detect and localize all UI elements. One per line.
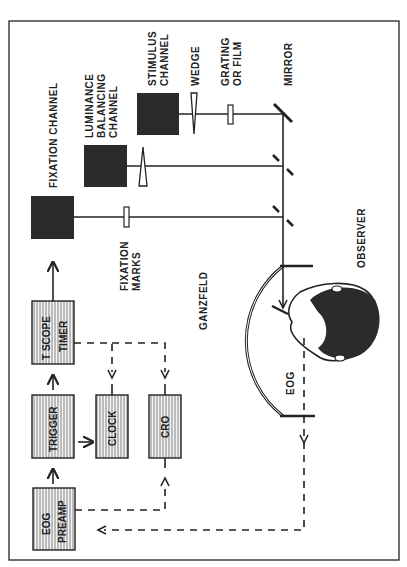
timer-to-clock-dashed <box>74 343 112 372</box>
svg-text:EOG: EOG <box>41 513 52 535</box>
svg-text:TIMER: TIMER <box>58 320 69 352</box>
eog-label: EOG <box>285 371 296 395</box>
observer-head-icon <box>272 283 380 361</box>
preamp-to-cro-dashed <box>75 488 165 510</box>
svg-text:FIXATION: FIXATION <box>119 241 130 291</box>
svg-text:BALANCING: BALANCING <box>96 74 107 139</box>
eog-preamp-box <box>33 488 75 550</box>
grating-film-icon <box>228 105 233 124</box>
eog-to-preamp-dashed <box>104 338 304 530</box>
cro-label: CRO <box>160 416 171 438</box>
ganzfeld-dome <box>246 266 283 416</box>
svg-text:GRATING: GRATING <box>220 37 231 86</box>
observer-label: OBSERVER <box>356 208 367 268</box>
mirror-label: MIRROR <box>283 42 294 86</box>
timer-to-cro-dashed <box>112 343 165 372</box>
svg-text:LUMINANCE: LUMINANCE <box>84 74 95 139</box>
luminance-channel-label: LUMINANCE BALANCING CHANNEL <box>84 74 119 139</box>
grating-label: GRATING OR FILM <box>220 37 243 86</box>
svg-text:CHANNEL: CHANNEL <box>108 86 119 138</box>
svg-text:MARKS: MARKS <box>131 252 142 291</box>
svg-text:T SCOPE: T SCOPE <box>41 316 52 360</box>
svg-text:STIMULUS: STIMULUS <box>147 31 158 86</box>
stimulus-wedge-icon <box>191 93 197 134</box>
luminance-channel-source <box>84 145 127 187</box>
fixation-marks-icon <box>124 207 129 227</box>
svg-text:PREAMP: PREAMP <box>57 500 68 543</box>
apparatus-diagram: FIXATION CHANNEL LUMINANCE BALANCING CHA… <box>0 0 407 567</box>
clock-label: CLOCK <box>107 410 118 446</box>
fixation-channel-source <box>31 196 74 239</box>
stimulus-channel-source <box>137 93 179 135</box>
trigger-label: TRIGGER <box>48 406 59 452</box>
wedge-label: WEDGE <box>190 46 201 86</box>
svg-text:OR FILM: OR FILM <box>232 41 243 86</box>
fixation-marks-label: FIXATION MARKS <box>119 241 142 291</box>
ganzfeld-label: GANZFELD <box>198 272 209 330</box>
stimulus-channel-label: STIMULUS CHANNEL <box>147 31 170 86</box>
svg-text:CHANNEL: CHANNEL <box>159 34 170 86</box>
fixation-channel-label: FIXATION CHANNEL <box>48 82 59 188</box>
